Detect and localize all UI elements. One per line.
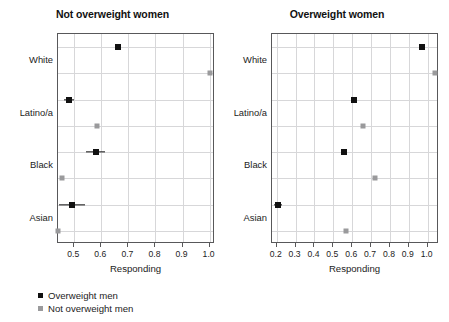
- legend-entry: Overweight men: [38, 289, 133, 302]
- data-point-not-overweight-men: [343, 228, 348, 233]
- x-tick-label: 1.0: [203, 249, 215, 259]
- category-label-latinoa: Latino/a: [0, 106, 53, 117]
- x-tick-mark: [370, 243, 371, 247]
- gridline-horizontal: [58, 73, 213, 74]
- category-label-white: White: [0, 54, 53, 65]
- data-point-not-overweight-men: [56, 228, 61, 233]
- gridline-vertical: [371, 34, 372, 242]
- x-tick-mark: [408, 243, 409, 247]
- x-tick-label: 0.6: [94, 249, 106, 259]
- legend-entry: Not overweight men: [38, 302, 133, 315]
- x-tick-mark: [313, 243, 314, 247]
- legend-label: Not overweight men: [48, 303, 133, 314]
- x-axis-title: Responding: [110, 263, 161, 274]
- x-tick-mark: [73, 243, 74, 247]
- chart-panel-1: Not overweight womenWhiteLatino/aBlackAs…: [0, 0, 225, 290]
- gridline-horizontal: [58, 178, 213, 179]
- x-tick-label: 0.5: [67, 249, 79, 259]
- x-tick-label: 0.3: [289, 249, 301, 259]
- x-tick-mark: [389, 243, 390, 247]
- gridline-vertical: [390, 34, 391, 242]
- x-tick-mark: [427, 243, 428, 247]
- x-tick-mark: [209, 243, 210, 247]
- x-tick-mark: [351, 243, 352, 247]
- x-tick-mark: [182, 243, 183, 247]
- data-point-overweight-men: [69, 202, 75, 208]
- figure-canvas: Not overweight womenWhiteLatino/aBlackAs…: [0, 0, 449, 322]
- x-tick-mark: [332, 243, 333, 247]
- gridline-vertical: [296, 34, 297, 242]
- gridline-vertical: [314, 34, 315, 242]
- x-tick-label: 0.9: [176, 249, 188, 259]
- gridline-horizontal: [272, 126, 437, 127]
- gridline-horizontal: [272, 47, 437, 48]
- data-point-overweight-men: [419, 44, 425, 50]
- legend-swatch-overweight-men: [38, 293, 43, 298]
- gridline-horizontal: [272, 231, 437, 232]
- x-tick-mark: [276, 243, 277, 247]
- data-point-not-overweight-men: [372, 176, 377, 181]
- data-point-overweight-men: [351, 97, 357, 103]
- gridline-vertical: [101, 34, 102, 242]
- gridline-horizontal: [272, 152, 437, 153]
- legend-swatch-not-overweight-men: [38, 306, 43, 311]
- gridline-horizontal: [58, 152, 213, 153]
- gridline-vertical: [428, 34, 429, 242]
- data-point-overweight-men: [275, 202, 281, 208]
- category-label-black: Black: [187, 159, 267, 170]
- gridline-horizontal: [58, 47, 213, 48]
- chart-panel-2: Overweight womenWhiteLatino/aBlackAsian0…: [225, 0, 449, 290]
- x-tick-mark: [154, 243, 155, 247]
- x-tick-label: 0.4: [307, 249, 319, 259]
- panel-title: Overweight women: [225, 8, 449, 20]
- chart-legend: Overweight menNot overweight men: [38, 289, 133, 315]
- plot-area: [271, 33, 438, 243]
- data-point-not-overweight-men: [360, 123, 365, 128]
- gridline-horizontal: [272, 205, 437, 206]
- gridline-vertical: [183, 34, 184, 242]
- x-tick-mark: [127, 243, 128, 247]
- gridline-vertical: [352, 34, 353, 242]
- data-point-not-overweight-men: [95, 123, 100, 128]
- gridline-vertical: [409, 34, 410, 242]
- gridline-vertical: [155, 34, 156, 242]
- x-tick-label: 0.8: [148, 249, 160, 259]
- gridline-horizontal: [58, 126, 213, 127]
- legend-label: Overweight men: [48, 290, 118, 301]
- data-point-overweight-men: [93, 149, 99, 155]
- gridline-horizontal: [58, 100, 213, 101]
- category-label-latinoa: Latino/a: [187, 106, 267, 117]
- gridline-horizontal: [272, 178, 437, 179]
- x-tick-mark: [295, 243, 296, 247]
- x-tick-label: 0.7: [364, 249, 376, 259]
- category-label-asian: Asian: [0, 211, 53, 222]
- x-tick-label: 0.2: [270, 249, 282, 259]
- x-tick-label: 0.6: [345, 249, 357, 259]
- data-point-not-overweight-men: [433, 71, 438, 76]
- data-point-not-overweight-men: [207, 71, 212, 76]
- gridline-vertical: [333, 34, 334, 242]
- data-point-not-overweight-men: [60, 176, 65, 181]
- x-tick-label: 0.5: [326, 249, 338, 259]
- x-tick-label: 0.9: [402, 249, 414, 259]
- x-tick-label: 0.8: [383, 249, 395, 259]
- gridline-vertical: [277, 34, 278, 242]
- x-tick-mark: [100, 243, 101, 247]
- category-label-white: White: [187, 54, 267, 65]
- x-tick-label: 1.0: [421, 249, 433, 259]
- data-point-overweight-men: [115, 44, 121, 50]
- gridline-vertical: [128, 34, 129, 242]
- data-point-overweight-men: [66, 97, 72, 103]
- gridline-horizontal: [58, 231, 213, 232]
- category-label-black: Black: [0, 159, 53, 170]
- category-label-asian: Asian: [187, 211, 267, 222]
- gridline-vertical: [74, 34, 75, 242]
- gridline-horizontal: [272, 73, 437, 74]
- x-axis-title: Responding: [329, 263, 380, 274]
- data-point-overweight-men: [341, 149, 347, 155]
- panel-title: Not overweight women: [0, 8, 225, 20]
- x-tick-label: 0.7: [121, 249, 133, 259]
